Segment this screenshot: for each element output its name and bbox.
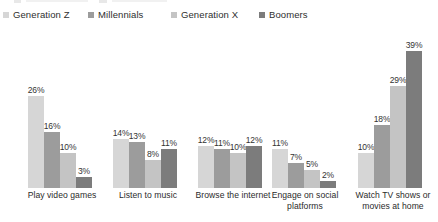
bar-group: 14%13%8%11% [113,26,181,188]
bar-rect [76,177,92,188]
bar[interactable]: 10% [230,26,246,188]
bar-group: 11%7%5%2% [272,26,340,188]
legend-swatch-icon [88,12,94,18]
bar-value-label: 14% [113,128,130,138]
bar-value-label: 10% [358,142,375,152]
bar-chart: Generation ZMillennialsGeneration XBoome… [0,0,438,222]
bar-group-bars: 10%18%29%39% [358,26,426,188]
legend-swatch-icon [171,12,177,18]
bar-rect [145,160,161,188]
bar-value-label: 8% [147,149,159,159]
bar-group-bars: 14%13%8%11% [113,26,181,188]
bar-value-label: 11% [161,138,177,148]
bar[interactable]: 13% [129,26,145,188]
bar-value-label: 12% [198,135,215,145]
bar-value-label: 3% [78,166,90,176]
bar[interactable]: 39% [406,26,422,188]
bar-value-label: 10% [60,142,77,152]
legend-swatch-icon [259,12,265,18]
bar[interactable]: 8% [145,26,161,188]
bar-value-label: 10% [230,142,247,152]
bar-value-label: 18% [374,114,391,124]
bar-rect [390,86,406,188]
bar[interactable]: 26% [28,26,44,188]
bar-value-label: 39% [406,40,423,50]
bar[interactable]: 11% [272,26,288,188]
bar-rect [113,139,129,188]
legend-item-millennials[interactable]: Millennials [88,9,143,20]
bar-rect [129,142,145,188]
bar[interactable]: 11% [214,26,230,188]
bar-value-label: 13% [129,131,146,141]
bar-rect [60,153,76,188]
bar-rect [358,153,374,188]
bar-value-label: 26% [28,85,45,95]
plot-area: 26%16%10%3%14%13%8%11%12%11%10%12%11%7%5… [0,26,438,188]
bar-value-label: 11% [272,138,288,148]
bar-rect [246,146,262,188]
bar[interactable]: 5% [304,26,320,188]
bar-value-label: 5% [306,159,318,169]
bar-value-label: 11% [214,138,230,148]
bar-rect [304,170,320,188]
bar[interactable]: 12% [246,26,262,188]
legend-item-label: Generation X [181,9,238,20]
legend-swatch-icon [3,12,9,18]
bar-rect [288,163,304,188]
category-label: Watch TV shows or movies at home [348,190,438,211]
bar-group: 10%18%29%39% [358,26,426,188]
bar-value-label: 2% [322,170,334,180]
bar[interactable]: 11% [161,26,177,188]
bar-value-label: 29% [390,75,407,85]
legend-item-label: Generation Z [13,9,70,20]
legend-item-label: Boomers [269,9,308,20]
bar[interactable]: 10% [358,26,374,188]
legend-item-label: Millennials [98,9,143,20]
bar-value-label: 16% [44,121,61,131]
bar-rect [214,149,230,188]
bar-rect [44,132,60,188]
bar-group-bars: 12%11%10%12% [198,26,266,188]
bar[interactable]: 16% [44,26,60,188]
legend-item-boomers[interactable]: Boomers [259,9,308,20]
bar[interactable]: 10% [60,26,76,188]
bar-group: 12%11%10%12% [198,26,266,188]
bar-rect [272,149,288,188]
category-axis-labels: Play video gamesListen to musicBrowse th… [0,190,438,222]
bar[interactable]: 29% [390,26,406,188]
legend-item-generation-z[interactable]: Generation Z [3,9,70,20]
bar-group: 26%16%10%3% [28,26,96,188]
bar-group-bars: 11%7%5%2% [272,26,340,188]
bar-rect [374,125,390,188]
bar-group-bars: 26%16%10%3% [28,26,96,188]
bar[interactable]: 3% [76,26,92,188]
bar[interactable]: 18% [374,26,390,188]
bar-rect [198,146,214,188]
bar[interactable]: 14% [113,26,129,188]
bar-value-label: 12% [246,135,263,145]
scan-artifact [0,0,438,5]
bar[interactable]: 12% [198,26,214,188]
bar-value-label: 7% [290,152,302,162]
category-label: Engage on social platforms [262,190,348,211]
bar-rect [161,149,177,188]
bar-rect [406,51,422,188]
bar[interactable]: 7% [288,26,304,188]
legend-item-generation-x[interactable]: Generation X [171,9,238,20]
bar-rect [28,96,44,188]
bar[interactable]: 2% [320,26,336,188]
bar-rect [320,181,336,188]
bar-rect [230,153,246,188]
chart-legend: Generation ZMillennialsGeneration XBoome… [0,9,438,25]
